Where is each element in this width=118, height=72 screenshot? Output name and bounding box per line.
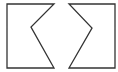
left-notched-shape bbox=[7, 4, 54, 68]
right-notched-shape bbox=[69, 4, 115, 68]
diagram-canvas bbox=[0, 0, 118, 72]
